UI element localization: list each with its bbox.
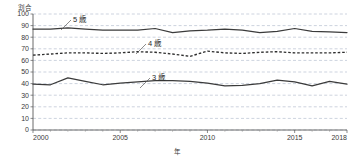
series-line-3歳 [33,78,347,86]
data-series [33,28,347,86]
series-line-5歳 [33,28,347,33]
y-axis-title: 割合 [18,3,32,12]
y-tick-label: 90 [21,22,29,29]
series-label-5歳: 5 歳 [73,14,87,24]
x-tick-label: 2010 [200,134,216,141]
x-tick-label: 2005 [112,134,128,141]
annotation-leader-line [140,78,150,88]
series-label-3歳: 3 歳 [152,72,166,82]
y-tick-label: 0 [25,126,29,133]
y-tick-label: 10 [21,115,29,122]
x-tick-label: 2000 [33,134,49,141]
y-tick-label: 40 [21,80,29,87]
y-tick-label: 60 [21,57,29,64]
chart-canvas: 0102030405060708090100 20002005201020152… [0,0,355,159]
series-label-4歳: 4 歳 [148,38,162,48]
y-tick-label: 30 [21,92,29,99]
y-axis-tick-labels: 0102030405060708090100 [17,10,29,133]
x-tick-label: 2018 [331,134,347,141]
x-tick-label: 2015 [287,134,303,141]
y-tick-label: 80 [21,34,29,41]
x-axis-title: 年 [174,147,181,156]
line-chart-container: 0102030405060708090100 20002005201020152… [0,0,355,159]
y-tick-label: 100 [17,10,29,17]
y-tick-label: 50 [21,68,29,75]
series-line-4歳 [33,51,347,56]
x-axis-tick-labels: 20002005201020152018 [33,134,347,141]
tick-marks [31,14,348,133]
y-tick-label: 20 [21,103,29,110]
series-annotations: 5 歳4 歳3 歳 [61,14,166,88]
y-tick-label: 70 [21,45,29,52]
